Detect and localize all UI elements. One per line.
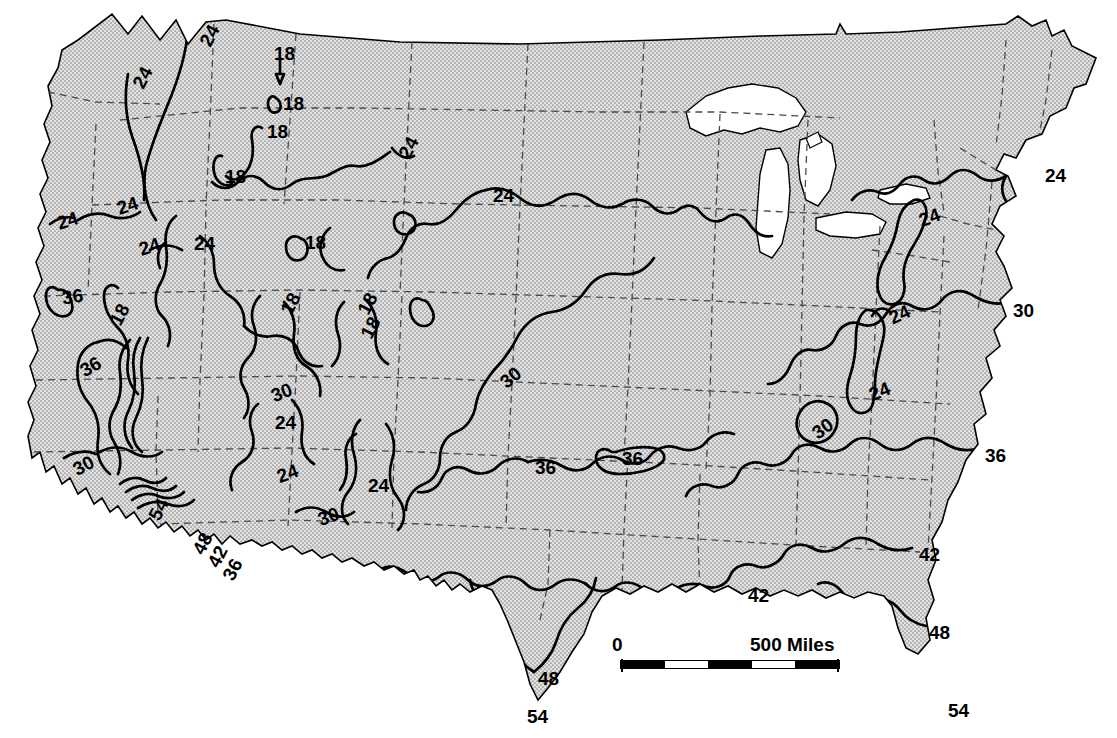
scale-max-label: 500 Miles [750,634,835,656]
contour-54 [904,691,946,704]
contour-label-42: 42 [919,545,940,564]
contour-label-36: 36 [985,446,1006,465]
scale-segment [621,661,665,668]
contour-label-18: 18 [267,122,288,141]
contour-label-18: 18 [225,167,246,186]
contour-label-48: 48 [538,669,559,688]
scale-segment [665,661,709,668]
scale-bar: 0 500 Miles [620,660,840,669]
scale-tick-end [837,659,839,672]
scale-segment [708,661,752,668]
landmass-layer [28,14,1096,700]
scale-bar-track [620,660,840,669]
scale-segment [795,661,839,668]
contour-label-36: 36 [61,286,85,308]
contour-label-30: 30 [1013,301,1034,320]
contour-label-24: 24 [368,476,389,495]
contour-label-18: 18 [283,94,304,113]
lake-erie [816,212,886,238]
contour-label-24: 24 [275,413,296,432]
contour-label-24: 24 [194,234,215,253]
usa-landmass-fill [28,14,1096,700]
contour-label-54: 54 [527,707,548,726]
contour-label-36: 36 [622,449,643,468]
scale-tick-start [621,659,623,672]
contour-label-18: 18 [274,44,295,63]
contour-label-24: 24 [493,186,514,205]
contour-label-36: 36 [535,458,556,477]
contour-map-figure: 2418241818182424242424242424183618181830… [0,0,1117,738]
contour-label-42: 42 [748,586,769,605]
contour-label-18: 18 [305,233,326,252]
scale-segment [752,661,796,668]
scale-zero-label: 0 [612,634,623,656]
contour-label-24: 24 [1045,166,1066,185]
contour-label-48: 48 [929,623,950,642]
contour-label-54: 54 [948,701,969,720]
